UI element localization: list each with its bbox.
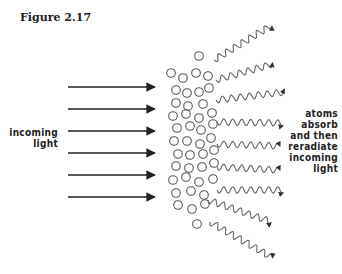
atom-circle (193, 220, 202, 229)
atom-circle (207, 134, 216, 143)
atom-circle (197, 126, 206, 135)
atom-circle (192, 69, 201, 78)
atom-circle (210, 159, 219, 168)
incoming-arrows (68, 87, 155, 197)
atom-circle (205, 84, 214, 93)
atom-circle (195, 114, 204, 123)
atom-circle (198, 163, 207, 172)
atom-circle (188, 205, 197, 214)
atom-circle (170, 137, 179, 146)
reradiated-wave (216, 63, 273, 83)
reradiated-wave (214, 26, 272, 62)
atom-circle (187, 187, 196, 196)
scattering-diagram (0, 0, 342, 274)
atom-circle (179, 74, 188, 83)
atoms-group (167, 52, 219, 229)
atom-circle (186, 151, 195, 160)
atom-circle (182, 110, 191, 119)
atom-circle (195, 88, 204, 97)
atom-circle (200, 191, 209, 200)
reradiated-wave (216, 89, 284, 103)
reradiated-wave (217, 141, 280, 149)
atom-circle (174, 150, 183, 159)
atom-circle (210, 146, 219, 155)
atom-circle (172, 189, 181, 198)
reradiated-wave (208, 199, 271, 224)
atom-circle (172, 86, 181, 95)
atom-circle (199, 150, 208, 159)
reradiated-wave (217, 119, 283, 126)
atom-circle (195, 178, 204, 187)
atom-circle (186, 122, 195, 131)
atom-circle (172, 99, 181, 108)
reradiated-wave (217, 164, 280, 173)
atom-circle (182, 173, 191, 182)
atom-circle (209, 120, 218, 129)
atom-circle (185, 164, 194, 173)
atom-circle (167, 69, 176, 78)
atom-circle (169, 112, 178, 121)
atom-circle (199, 100, 208, 109)
atom-circle (208, 109, 217, 118)
atom-circle (169, 176, 178, 185)
atom-circle (184, 102, 193, 111)
atom-circle (196, 140, 205, 149)
atom-circle (195, 52, 204, 61)
atom-circle (183, 137, 192, 146)
reradiated-wave (217, 187, 283, 193)
atom-circle (174, 201, 183, 210)
reradiated-waves (208, 26, 284, 258)
reradiated-wave (210, 222, 273, 258)
atom-circle (173, 124, 182, 133)
atom-circle (209, 175, 218, 184)
atom-circle (204, 72, 213, 81)
atom-circle (172, 162, 181, 171)
atom-circle (183, 89, 192, 98)
